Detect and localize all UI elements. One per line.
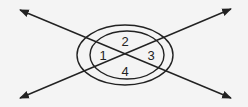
label-3: 3 [147,48,154,63]
label-2: 2 [121,34,128,49]
label-4: 4 [121,64,128,79]
label-1: 1 [99,48,106,63]
diagram-canvas: 1 2 3 4 [0,0,248,107]
